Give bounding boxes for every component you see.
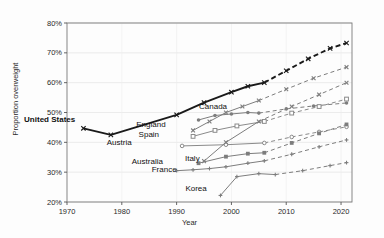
series-austria	[180, 125, 348, 148]
svg-text:20%: 20%	[47, 198, 62, 207]
series-label-canada: Canada	[199, 102, 228, 111]
svg-text:80%: 80%	[47, 19, 62, 28]
svg-text:2010: 2010	[278, 207, 295, 216]
series-label-italy: Italy	[185, 154, 200, 163]
svg-text:70%: 70%	[47, 48, 62, 57]
svg-text:30%: 30%	[47, 168, 62, 177]
chart-canvas: 20%30%40%50%60%70%80%1970198019902000201…	[0, 0, 384, 238]
series-label-france: France	[152, 165, 177, 174]
series-australia	[202, 81, 348, 163]
series-label-korea: Korea	[185, 184, 207, 193]
svg-text:2020: 2020	[333, 207, 350, 216]
svg-text:1980: 1980	[113, 207, 130, 216]
svg-text:40%: 40%	[47, 138, 62, 147]
series-united-states	[81, 41, 348, 137]
x-axis-title: Year	[182, 218, 198, 227]
svg-text:1970: 1970	[59, 207, 76, 216]
series-label-united-states: United States	[24, 115, 76, 124]
gridlines	[67, 23, 352, 202]
series-label-england: England	[136, 120, 165, 129]
series-label-austria: Austria	[107, 138, 132, 147]
chart-figure: Proportion overweight 20%30%40%50%60%70%…	[0, 0, 384, 238]
series-korea	[219, 161, 349, 198]
svg-text:2000: 2000	[223, 207, 240, 216]
svg-text:1990: 1990	[168, 207, 185, 216]
svg-text:60%: 60%	[47, 78, 62, 87]
series-label-spain: Spain	[139, 130, 159, 139]
